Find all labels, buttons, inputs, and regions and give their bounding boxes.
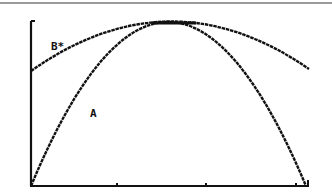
plot-area [0, 0, 332, 195]
curve-label-a: A [90, 108, 97, 119]
curve-label-b-star: B* [51, 41, 64, 52]
curve-b-star [31, 21, 309, 71]
